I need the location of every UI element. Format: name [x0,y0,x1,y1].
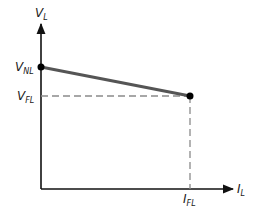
vnl-label: VNL [15,60,34,76]
y-axis-label: VL [35,6,48,22]
x-axis-label: IL [237,182,245,198]
full-load-point [187,93,194,100]
vfl-label: VFL [17,89,34,105]
ifl-label: IFL [183,192,196,208]
regulation-curve [41,67,190,96]
no-load-point [38,64,45,71]
voltage-regulation-diagram: VL VNL VFL IFL IL [0,0,263,216]
